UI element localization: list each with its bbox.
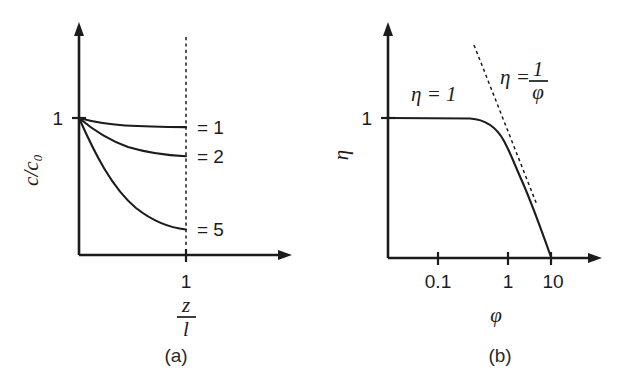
panel-a-curve-1 [79,118,186,127]
panel-a-x-axis-arrowhead [278,250,292,260]
panel-a-x-tick-label: 1 [181,271,192,292]
panel-b-y-axis-label: η [329,150,353,160]
panel-a-y-axis-arrowhead [74,22,84,36]
panel-a-x-axis-label-denominator: l [183,317,189,341]
panel-b-x-axis-label: φ [490,303,502,327]
panel-b-x-tick-label-0.1: 0.1 [425,271,451,292]
panel-b-x-tick-label-10: 10 [542,271,563,292]
panel-b-x-axis-arrowhead [588,253,602,263]
panel-b-y-tick-label: 1 [361,108,372,129]
panel-a-curve-2-label: = 2 [197,146,224,167]
panel-a-curve-3-label: = 5 [197,219,224,240]
panel-a: 1 c/c₀ 1 z l = 1 = 2 = 5 (a) [19,22,292,366]
panel-a-curve-3 [79,118,186,230]
panel-b-asymptote-label-denominator: φ [532,80,544,104]
panel-a-x-axis-label-numerator: z [181,293,190,317]
panel-a-y-axis-label-text: c/c₀ [19,154,43,186]
panel-b-y-axis-arrowhead [383,22,393,36]
panel-b-x-tick-label-1: 1 [503,271,514,292]
figure-container: 1 c/c₀ 1 z l = 1 = 2 = 5 (a) [0,0,634,392]
panel-a-curve-1-label: = 1 [197,117,224,138]
panel-b-y-axis-label-text: η [329,150,353,160]
panel-b-plateau-label: η = 1 [411,82,457,106]
panel-b-asymptote-label-lhs: η = [500,65,530,89]
panel-b-caption: (b) [488,345,511,366]
panel-a-y-axis-label: c/c₀ [19,154,43,186]
panel-a-y-tick-label: 1 [52,108,63,129]
panel-a-caption: (a) [164,345,187,366]
panel-b-asymptote-label: η = 1 φ [500,57,548,104]
panel-a-x-axis-label: z l [177,293,196,341]
panel-b: 1 η 0.1 1 10 φ η = 1 η = 1 φ (b) [329,22,602,366]
panel-b-effectiveness-curve [389,118,551,257]
panel-b-asymptote-label-numerator: 1 [533,57,544,81]
